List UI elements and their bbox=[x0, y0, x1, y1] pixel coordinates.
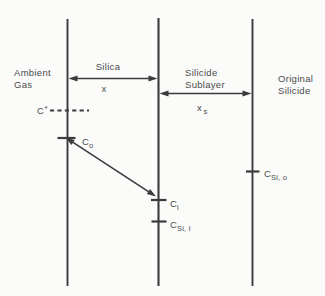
diagram-background bbox=[0, 0, 325, 296]
ambient-gas-label-line2: Gas bbox=[14, 79, 32, 90]
original-silicide-label-line1: Original bbox=[278, 73, 313, 84]
c-star-label-main: C bbox=[37, 105, 44, 116]
silicide-sublayer-label-line1: Silicide bbox=[185, 67, 218, 78]
silicide-thickness-label-sub: s bbox=[204, 107, 208, 116]
oxidation-profile-diagram: Ambient Gas Silica x Silicide Sublayer x… bbox=[0, 0, 325, 296]
diagram-canvas: Ambient Gas Silica x Silicide Sublayer x… bbox=[0, 0, 325, 296]
silica-thickness-label: x bbox=[101, 83, 106, 94]
ambient-gas-label-line1: Ambient bbox=[14, 67, 51, 78]
silicide-sublayer-label-line2: Sublayer bbox=[185, 79, 225, 90]
c-si-o-label-sub: Si, o bbox=[271, 173, 287, 182]
c-star-label-sup: * bbox=[45, 104, 48, 113]
silica-label: Silica bbox=[96, 61, 121, 72]
c-i-label-sub: i bbox=[177, 203, 179, 212]
silicide-thickness-label-main: x bbox=[197, 102, 202, 113]
c-o-label-sub: o bbox=[89, 141, 93, 150]
c-si-i-label-sub: Si, i bbox=[177, 224, 191, 233]
original-silicide-label-line2: Silicide bbox=[278, 85, 311, 96]
